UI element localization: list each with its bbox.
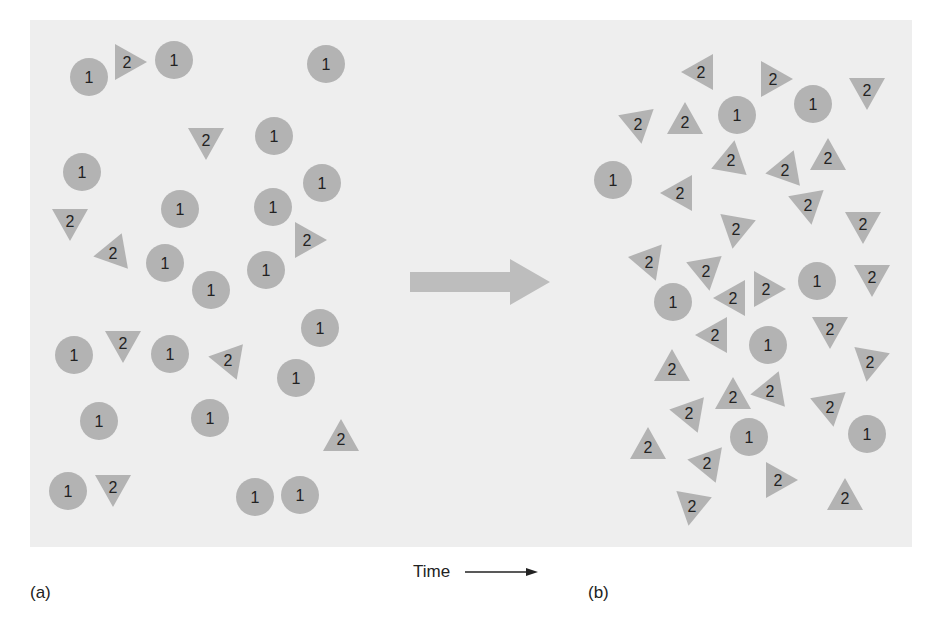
species-2-triangle: 2 xyxy=(713,280,745,316)
svg-text:2: 2 xyxy=(337,431,346,448)
species-1-circle: 1 xyxy=(303,164,341,202)
species-1-circle: 1 xyxy=(281,476,319,514)
svg-text:1: 1 xyxy=(292,370,301,387)
svg-text:1: 1 xyxy=(206,410,215,427)
svg-text:1: 1 xyxy=(85,69,94,86)
svg-text:2: 2 xyxy=(688,498,697,515)
species-2-triangle: 2 xyxy=(788,190,829,228)
svg-text:2: 2 xyxy=(727,152,736,169)
species-2-triangle: 2 xyxy=(715,214,756,252)
svg-text:1: 1 xyxy=(70,347,79,364)
svg-text:1: 1 xyxy=(863,426,872,443)
svg-text:1: 1 xyxy=(95,413,104,430)
species-2-triangle: 2 xyxy=(188,128,224,160)
species-1-circle: 1 xyxy=(151,335,189,373)
species-2-triangle: 2 xyxy=(666,392,704,433)
species-1-circle: 1 xyxy=(277,359,315,397)
species-1-circle: 1 xyxy=(301,309,339,347)
species-2-triangle: 2 xyxy=(849,78,885,110)
svg-text:2: 2 xyxy=(109,479,118,496)
species-2-triangle: 2 xyxy=(812,317,848,349)
svg-text:2: 2 xyxy=(645,254,654,271)
species-1-circle: 1 xyxy=(161,190,199,228)
species-2-triangle: 2 xyxy=(115,44,147,80)
svg-text:1: 1 xyxy=(764,337,773,354)
svg-text:1: 1 xyxy=(318,175,327,192)
svg-text:1: 1 xyxy=(316,320,325,337)
species-2-triangle: 2 xyxy=(684,442,722,483)
svg-text:2: 2 xyxy=(866,354,875,371)
species-1-circle: 1 xyxy=(594,161,632,199)
species-2-triangle: 2 xyxy=(747,371,785,412)
species-2-triangle: 2 xyxy=(654,349,690,381)
species-1-circle: 1 xyxy=(254,188,292,226)
species-1-circle: 1 xyxy=(80,402,118,440)
svg-text:2: 2 xyxy=(841,490,850,507)
species-2-triangle: 2 xyxy=(630,427,666,459)
svg-text:1: 1 xyxy=(269,199,278,216)
species-1-circle: 1 xyxy=(70,58,108,96)
svg-text:2: 2 xyxy=(119,335,128,352)
species-1-circle: 1 xyxy=(749,326,787,364)
svg-text:1: 1 xyxy=(207,282,216,299)
species-2-triangle: 2 xyxy=(827,478,863,510)
species-2-triangle: 2 xyxy=(766,462,798,498)
svg-text:1: 1 xyxy=(733,107,742,124)
svg-text:2: 2 xyxy=(644,439,653,456)
species-2-triangle: 2 xyxy=(695,317,727,353)
svg-text:2: 2 xyxy=(224,352,233,369)
species-2-triangle: 2 xyxy=(618,109,659,147)
svg-text:1: 1 xyxy=(270,128,279,145)
svg-text:2: 2 xyxy=(766,383,775,400)
svg-text:1: 1 xyxy=(262,262,271,279)
species-1-circle: 1 xyxy=(192,271,230,309)
species-1-circle: 1 xyxy=(247,251,285,289)
species-1-circle: 1 xyxy=(146,244,184,282)
species-2-triangle: 2 xyxy=(295,222,327,258)
species-2-triangle: 2 xyxy=(810,138,846,170)
svg-text:2: 2 xyxy=(685,405,694,422)
species-1-circle: 1 xyxy=(794,85,832,123)
svg-text:2: 2 xyxy=(774,472,783,489)
species-1-circle: 1 xyxy=(155,41,193,79)
svg-text:1: 1 xyxy=(809,96,818,113)
species-2-triangle: 2 xyxy=(711,137,752,175)
species-2-triangle: 2 xyxy=(667,102,703,134)
svg-text:2: 2 xyxy=(732,221,741,238)
species-2-triangle: 2 xyxy=(628,245,673,287)
svg-text:2: 2 xyxy=(762,281,771,298)
species-2-triangle: 2 xyxy=(754,271,786,307)
species-1-circle: 1 xyxy=(307,45,345,83)
svg-text:2: 2 xyxy=(109,245,118,262)
svg-text:2: 2 xyxy=(697,64,706,81)
svg-text:2: 2 xyxy=(66,213,75,230)
svg-text:2: 2 xyxy=(729,290,738,307)
time-axis-label: Time xyxy=(413,562,450,582)
svg-text:2: 2 xyxy=(781,162,790,179)
svg-text:2: 2 xyxy=(729,389,738,406)
svg-text:1: 1 xyxy=(745,429,754,446)
svg-text:2: 2 xyxy=(826,321,835,338)
svg-text:1: 1 xyxy=(251,489,260,506)
svg-text:2: 2 xyxy=(681,114,690,131)
svg-text:2: 2 xyxy=(202,132,211,149)
species-2-triangle: 2 xyxy=(90,233,128,274)
species-2-triangle: 2 xyxy=(105,331,141,363)
svg-text:1: 1 xyxy=(170,52,179,69)
svg-text:2: 2 xyxy=(826,399,835,416)
svg-text:1: 1 xyxy=(669,294,678,311)
svg-text:1: 1 xyxy=(161,255,170,272)
species-1-circle: 1 xyxy=(730,418,768,456)
svg-text:2: 2 xyxy=(863,82,872,99)
species-2-triangle: 2 xyxy=(52,209,88,241)
svg-text:2: 2 xyxy=(769,71,778,88)
species-2-triangle: 2 xyxy=(671,491,712,529)
species-2-triangle: 2 xyxy=(660,175,692,211)
svg-text:2: 2 xyxy=(804,197,813,214)
species-1-circle: 1 xyxy=(798,262,836,300)
panel-a-label: (a) xyxy=(30,583,51,603)
svg-text:2: 2 xyxy=(711,327,720,344)
svg-text:1: 1 xyxy=(78,164,87,181)
svg-text:2: 2 xyxy=(303,232,312,249)
species-1-circle: 1 xyxy=(49,472,87,510)
